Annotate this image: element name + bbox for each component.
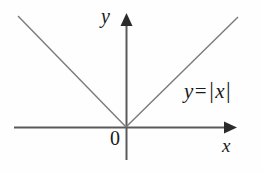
x-axis-label: x	[222, 136, 230, 155]
curve-right-branch	[126, 17, 238, 127]
equation-label: y=|x|	[184, 79, 232, 102]
y-axis-arrowhead	[121, 13, 133, 26]
equation-equals-sign: =	[194, 79, 208, 103]
curve-left-branch	[18, 16, 126, 127]
abs-bar-close: |	[225, 78, 232, 103]
equation-variable: x	[215, 79, 225, 103]
equation-lhs: y	[184, 79, 194, 103]
y-axis-label: y	[101, 6, 110, 26]
graph-figure: y x 0 y=|x|	[0, 0, 263, 173]
origin-label: 0	[110, 128, 120, 148]
x-axis-arrowhead	[224, 122, 237, 134]
